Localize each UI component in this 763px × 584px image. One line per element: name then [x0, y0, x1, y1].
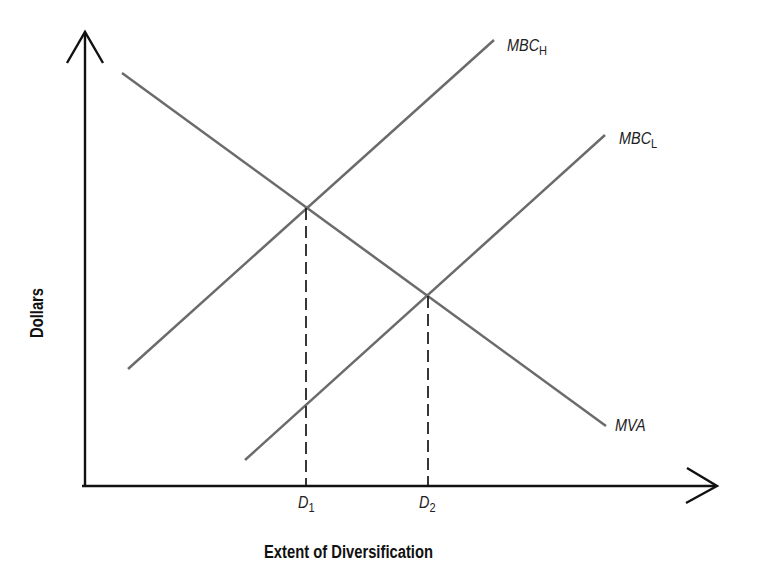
d1-tick-label: D1	[298, 493, 315, 515]
mbc-l-label-sub: L	[651, 136, 657, 151]
mbc-l-curve	[245, 135, 605, 460]
mbc-h-label-main: MBC	[507, 36, 539, 55]
d2-main: D	[419, 493, 429, 512]
x-axis-title: Extent of Diversification	[264, 542, 433, 563]
mbc-h-curve	[128, 40, 494, 369]
d1-sub: 1	[308, 500, 314, 515]
mbc-h-label-sub: H	[539, 43, 547, 58]
diagram-canvas	[0, 0, 763, 584]
mbc-l-label-main: MBC	[619, 129, 651, 148]
y-axis-title: Dollars	[27, 288, 48, 338]
mva-label-main: MVA	[615, 416, 646, 435]
d2-sub: 2	[429, 500, 435, 515]
mva-curve	[122, 73, 606, 426]
mbc-h-label: MBCH	[507, 36, 547, 58]
d1-main: D	[298, 493, 308, 512]
d2-tick-label: D2	[419, 493, 436, 515]
mva-label: MVA	[615, 416, 646, 436]
mbc-l-label: MBCL	[619, 129, 657, 151]
